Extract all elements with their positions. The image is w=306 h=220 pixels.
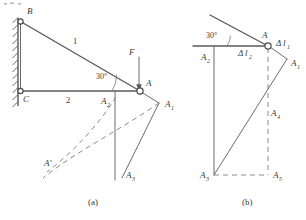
svg-text:5: 5 xyxy=(279,176,282,182)
joint-A-b xyxy=(265,43,271,49)
svg-text:2: 2 xyxy=(107,102,110,108)
engineering-figure: B C A 1 2 F 30° A 1 A 2 A 3 A' (a) xyxy=(0,0,306,220)
label-delta-l1: Δ l 1 xyxy=(275,38,290,50)
label-member-1: 1 xyxy=(73,36,77,46)
deflection-arc-inner xyxy=(47,97,116,172)
fixed-support-wall xyxy=(13,18,19,108)
joint-C xyxy=(18,88,23,93)
svg-text:A: A xyxy=(290,58,297,68)
label-A5-b: A 5 xyxy=(272,170,282,182)
svg-text:l: l xyxy=(245,48,248,58)
label-A-b: A xyxy=(261,30,268,40)
label-C: C xyxy=(23,94,30,104)
figure-page: B C A 1 2 F 30° A 1 A 2 A 3 A' (a) xyxy=(0,0,306,220)
label-A-prime: A' xyxy=(43,158,52,168)
svg-text:4: 4 xyxy=(277,114,280,120)
label-A1-b: A 1 xyxy=(290,58,300,70)
svg-text:A: A xyxy=(199,170,206,180)
diagram-b: A 30° Δ l 1 Δ l 2 A 1 A 2 A 3 xyxy=(193,15,300,207)
diagram-a: B C A 1 2 F 30° A 1 A 2 A 3 A' (a) xyxy=(13,6,175,207)
svg-text:A: A xyxy=(125,170,132,180)
label-angle-30-a: 30° xyxy=(96,72,107,81)
svg-text:2: 2 xyxy=(249,54,252,60)
force-arrow-F xyxy=(136,57,142,91)
joint-B xyxy=(18,19,23,24)
a-to-a1-line xyxy=(141,92,159,103)
svg-text:A: A xyxy=(270,108,277,118)
svg-text:Δ: Δ xyxy=(237,48,243,58)
label-B: B xyxy=(27,6,33,16)
angle-arc-b xyxy=(227,36,231,47)
inclined-member-b xyxy=(210,15,268,46)
label-member-2: 2 xyxy=(66,95,70,105)
svg-text:1: 1 xyxy=(287,44,290,50)
joint-A xyxy=(137,88,143,94)
a-to-a1-line-b xyxy=(270,47,287,59)
label-A2-b: A 2 xyxy=(200,52,210,64)
svg-text:A: A xyxy=(200,52,207,62)
svg-text:2: 2 xyxy=(207,58,210,64)
label-angle-30-b: 30° xyxy=(206,31,217,40)
label-A: A xyxy=(145,78,152,88)
svg-text:1: 1 xyxy=(171,105,174,111)
label-A1-a: A 1 xyxy=(164,99,174,111)
svg-text:A: A xyxy=(272,170,279,180)
label-delta-l2: Δ l 2 xyxy=(237,48,252,60)
label-force-F: F xyxy=(128,47,135,57)
label-A4-b: A 4 xyxy=(270,108,280,120)
a1-to-a3-line xyxy=(122,103,159,178)
caption-a: (a) xyxy=(88,197,98,207)
svg-text:l: l xyxy=(283,38,286,48)
deflection-arc-outer xyxy=(43,103,159,178)
svg-text:3: 3 xyxy=(205,176,209,182)
label-A3-a: A 3 xyxy=(125,170,135,182)
label-A2-a: A 2 xyxy=(100,96,110,108)
caption-b: (b) xyxy=(242,197,253,207)
label-A3-b: A 3 xyxy=(199,170,209,182)
scan-artifact xyxy=(4,3,21,5)
svg-text:A: A xyxy=(164,99,171,109)
svg-text:Δ: Δ xyxy=(275,38,281,48)
svg-text:1: 1 xyxy=(297,64,300,70)
svg-text:3: 3 xyxy=(131,176,135,182)
svg-text:A: A xyxy=(100,96,107,106)
member-1-line xyxy=(21,22,141,92)
